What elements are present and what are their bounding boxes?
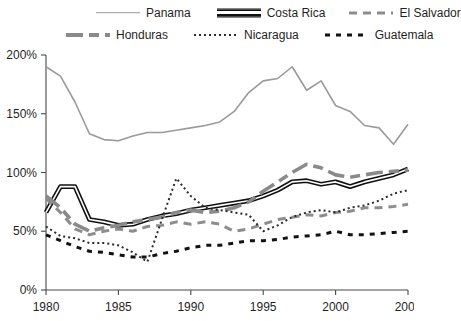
series-line-guatemala	[46, 231, 408, 257]
legend-row-1: Panama Costa Rica El Salvador	[0, 2, 414, 23]
legend-label-el-salvador: El Salvador	[399, 7, 460, 19]
y-tick-label: 0%	[20, 283, 38, 297]
legend-label-honduras: Honduras	[116, 29, 168, 41]
line-chart-svg: 0%50%100%150%200% 1980198519901995200020…	[0, 45, 414, 321]
y-tick-label: 150%	[6, 107, 37, 121]
x-tick-label: 1995	[250, 300, 277, 314]
series-line-panama	[46, 67, 408, 145]
legend-swatch-el-salvador	[349, 7, 393, 19]
legend-row-2: Honduras Nicaragua Guatemala	[0, 24, 414, 45]
legend-label-nicaragua: Nicaragua	[244, 29, 299, 41]
legend-label-costa-rica: Costa Rica	[267, 7, 326, 19]
legend-item-guatemala[interactable]: Guatemala	[325, 29, 434, 41]
y-tick-label: 200%	[6, 48, 37, 62]
x-axis: 198019851990199520002005	[33, 290, 414, 314]
x-tick-label: 1990	[177, 300, 204, 314]
series-group	[46, 67, 408, 262]
legend-item-el-salvador[interactable]: El Salvador	[349, 7, 460, 19]
x-tick-label: 1980	[33, 300, 60, 314]
x-tick-label: 1985	[105, 300, 132, 314]
legend-swatch-nicaragua	[194, 29, 238, 41]
legend-label-guatemala: Guatemala	[375, 29, 434, 41]
y-tick-group: 0%50%100%150%200%	[6, 48, 46, 297]
legend-swatch-costa-rica	[217, 7, 261, 19]
x-tick-group: 198019851990199520002005	[33, 290, 414, 314]
legend-swatch-guatemala	[325, 29, 369, 41]
y-axis: 0%50%100%150%200%	[6, 48, 46, 297]
x-tick-label: 2005	[395, 300, 414, 314]
legend-item-honduras[interactable]: Honduras	[66, 29, 168, 41]
legend-item-costa-rica[interactable]: Costa Rica	[217, 7, 326, 19]
legend-item-panama[interactable]: Panama	[96, 7, 191, 19]
legend-item-nicaragua[interactable]: Nicaragua	[194, 29, 299, 41]
chart-legend: Panama Costa Rica El Salvador Honduras N…	[0, 0, 414, 45]
chart-plot-area: 0%50%100%150%200% 1980198519901995200020…	[0, 45, 414, 321]
y-tick-label: 100%	[6, 166, 37, 180]
legend-swatch-panama	[96, 7, 140, 19]
y-tick-label: 50%	[13, 224, 37, 238]
legend-swatch-honduras	[66, 29, 110, 41]
legend-label-panama: Panama	[146, 7, 191, 19]
x-tick-label: 2000	[322, 300, 349, 314]
